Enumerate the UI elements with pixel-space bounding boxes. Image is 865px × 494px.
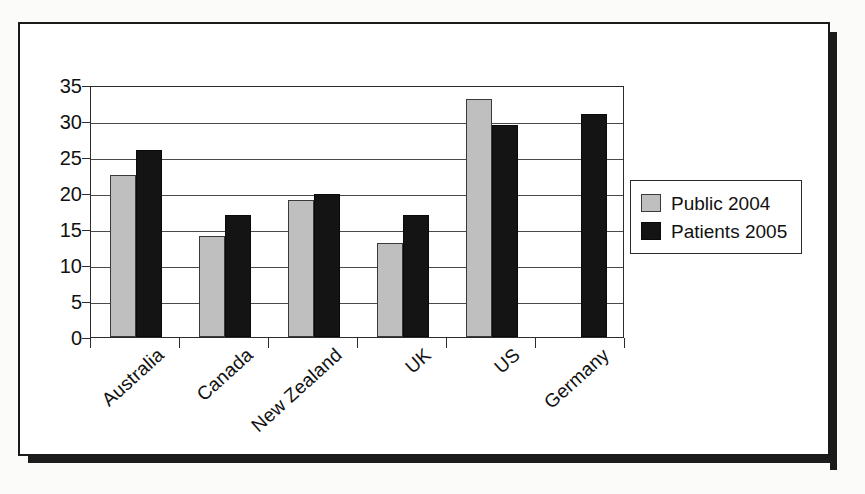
legend-swatch-public [641,194,661,212]
bar [403,215,429,337]
bar [199,236,225,337]
bar [136,150,162,337]
bar [288,200,314,337]
bar [581,114,607,337]
gridline [91,195,623,196]
y-axis-tick-label: 0 [38,328,82,348]
bar [110,175,136,337]
y-axis-tick-label: 35 [38,76,82,96]
chart-legend: Public 2004Patients 2005 [630,180,802,254]
frame-shadow-right [830,32,837,470]
x-axis-category-label: Canada [193,344,258,406]
x-axis-category-label: Germany [540,344,614,414]
bar [225,215,251,337]
y-axis-tick-label: 15 [38,220,82,240]
x-axis-category-label: Australia [98,344,169,411]
y-axis-tick-label: 5 [38,292,82,312]
gridline [91,123,623,124]
bar [377,243,403,337]
y-axis-labels: 05101520253035 [38,86,82,338]
plot-area [90,86,624,338]
x-axis-category-labels: AustraliaCanadaNew ZealandUKUSGermany [90,344,650,454]
scanned-page: 05101520253035 AustraliaCanadaNew Zealan… [0,0,865,494]
x-axis-category-label: New Zealand [247,344,347,437]
bar [314,194,340,337]
y-axis-tick-label: 20 [38,184,82,204]
bar [466,99,492,337]
x-axis-category-label: UK [401,344,436,378]
gridline [91,267,623,268]
frame-shadow-bottom [28,456,837,463]
gridline [91,231,623,232]
gridline [91,303,623,304]
y-axis-tick-label: 10 [38,256,82,276]
legend-item: Public 2004 [641,189,791,217]
legend-label: Patients 2005 [671,222,787,241]
bar [492,125,518,337]
x-axis-category-label: US [490,344,525,378]
legend-item: Patients 2005 [641,217,791,245]
gridline [91,159,623,160]
legend-label: Public 2004 [671,194,770,213]
y-axis-tick-label: 25 [38,148,82,168]
figure-frame: 05101520253035 AustraliaCanadaNew Zealan… [18,22,830,456]
legend-swatch-patients [641,222,661,240]
y-axis-tick-label: 30 [38,112,82,132]
